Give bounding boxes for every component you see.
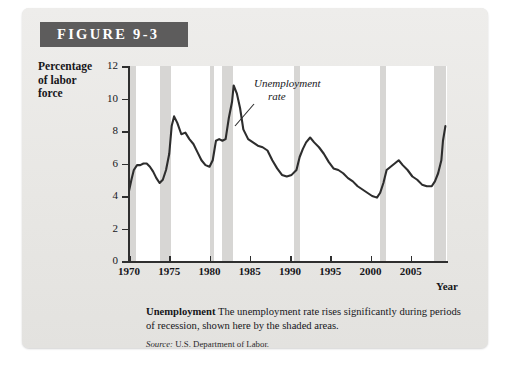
- y-axis-tick-label: 10: [92, 92, 118, 104]
- y-axis-title-line3: force: [38, 87, 63, 99]
- x-axis-tick: [169, 256, 171, 262]
- figure-source: Source: U.S. Department of Labor.: [146, 339, 468, 349]
- x-axis-tick: [290, 256, 292, 262]
- x-axis-tick: [330, 256, 332, 262]
- chart-area: Percentage of labor force 024681012 1970…: [22, 8, 488, 348]
- y-axis-title-line1: Percentage: [38, 60, 92, 72]
- annotation-line1: Unemployment: [254, 77, 321, 89]
- figure-page: FIGURE 9-3 Percentage of labor force 024…: [0, 0, 510, 385]
- x-axis-tick-label: 1995: [309, 265, 351, 277]
- x-axis-tick-label: 1975: [148, 265, 190, 277]
- y-axis-tick-label: 4: [92, 189, 118, 201]
- x-axis-tick: [129, 256, 131, 262]
- x-axis-tick-label: 2000: [350, 265, 392, 277]
- y-axis-tick-label: 12: [92, 59, 118, 71]
- series-annotation: Unemployment rate: [254, 77, 346, 102]
- source-prefix: Source:: [146, 339, 173, 349]
- annotation-line2: rate: [254, 90, 346, 103]
- y-axis-tick: [122, 196, 128, 198]
- x-axis-tick: [411, 256, 413, 262]
- x-axis-tick-label: 2005: [390, 265, 432, 277]
- y-axis-tick-label: 2: [92, 222, 118, 234]
- y-axis-tick: [122, 66, 128, 68]
- x-axis-tick-label: 1970: [108, 265, 150, 277]
- y-axis-line: [128, 66, 130, 262]
- y-axis-tick: [122, 261, 128, 263]
- x-axis-tick-label: 1980: [189, 265, 231, 277]
- x-axis-tick: [210, 256, 212, 262]
- y-axis-tick: [122, 229, 128, 231]
- x-axis-tick-label: 1985: [229, 265, 271, 277]
- y-axis-tick: [122, 131, 128, 133]
- caption-title: Unemployment: [146, 306, 215, 317]
- figure-caption: Unemployment The unemployment rate rises…: [146, 305, 468, 333]
- x-axis-tick: [371, 256, 373, 262]
- x-axis-title: Year: [436, 280, 458, 292]
- y-axis-tick: [122, 99, 128, 101]
- y-axis-tick: [122, 164, 128, 166]
- source-text: U.S. Department of Labor.: [175, 339, 269, 349]
- x-axis-tick-label: 1990: [269, 265, 311, 277]
- y-axis-title-line2: of labor: [38, 74, 77, 86]
- x-axis-tick: [250, 256, 252, 262]
- y-axis-tick-label: 8: [92, 124, 118, 136]
- figure-card: FIGURE 9-3 Percentage of labor force 024…: [22, 8, 488, 348]
- x-axis-line: [128, 261, 448, 263]
- y-axis-tick-label: 6: [92, 157, 118, 169]
